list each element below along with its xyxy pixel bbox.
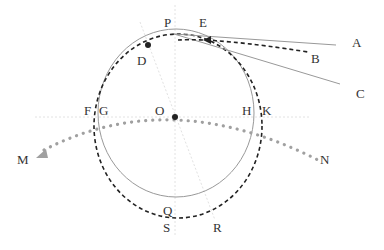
label-Q: Q <box>163 203 173 218</box>
label-H: H <box>242 103 251 118</box>
arrowhead-M-icon <box>36 149 48 158</box>
label-E: E <box>199 15 207 30</box>
label-P: P <box>164 15 171 30</box>
dashed-circle <box>94 34 262 218</box>
point-O <box>172 114 178 120</box>
label-O: O <box>155 103 164 118</box>
label-D: D <box>137 53 146 68</box>
label-C: C <box>356 86 365 101</box>
orbit-diagram: P E A B C D F G O H K M N Q S R <box>0 0 384 250</box>
diagonal-axis-line-dr <box>140 22 215 220</box>
label-G: G <box>99 103 108 118</box>
label-A: A <box>352 35 362 50</box>
label-S: S <box>163 220 170 235</box>
label-B: B <box>311 51 320 66</box>
point-D <box>145 42 151 48</box>
label-M: M <box>17 152 29 167</box>
label-K: K <box>262 103 272 118</box>
dotted-path-MN <box>44 120 318 160</box>
line-PA <box>174 34 336 45</box>
label-N: N <box>320 152 330 167</box>
label-R: R <box>213 220 222 235</box>
label-F: F <box>84 103 91 118</box>
